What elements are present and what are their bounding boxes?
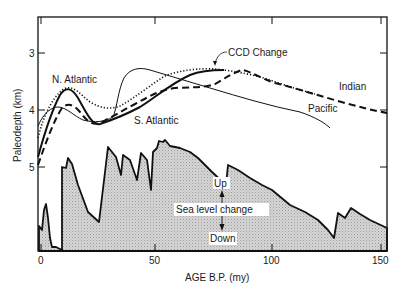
x-tick-150: 150 — [372, 255, 389, 266]
paleodepth-chart: 3 4 5 0 50 100 150 AGE B.P. (my) Paleode… — [0, 0, 401, 284]
pacific-label: Pacific — [308, 103, 337, 114]
sea-level-change-label: Sea level change — [176, 204, 253, 215]
down-label: Down — [210, 233, 236, 244]
up-label: Up — [214, 178, 227, 189]
y-axis-label: Paleodepth (km) — [12, 89, 23, 162]
n-atlantic-label: N. Atlantic — [52, 74, 97, 85]
ccd-change-label: CCD Change — [228, 47, 288, 58]
x-tick-50: 50 — [149, 255, 161, 266]
s-atlantic-label: S. Atlantic — [134, 115, 178, 126]
x-tick-100: 100 — [263, 255, 280, 266]
indian-label: Indian — [339, 81, 366, 92]
y-tick-3: 3 — [29, 48, 35, 59]
y-tick-4: 4 — [29, 105, 35, 116]
x-tick-0: 0 — [38, 255, 44, 266]
y-tick-5: 5 — [29, 162, 35, 173]
x-axis-label: AGE B.P. (my) — [185, 272, 249, 283]
